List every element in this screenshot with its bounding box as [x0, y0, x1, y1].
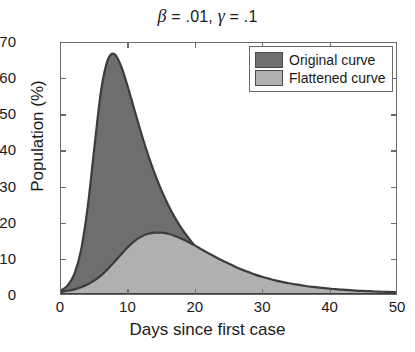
- x-tick-label-30: 30: [237, 298, 287, 315]
- legend-label: Original curve: [289, 52, 375, 68]
- y-tick-mark-40: [391, 150, 397, 151]
- y-tick-mark-40: [60, 150, 66, 151]
- gamma-value: = .1: [230, 8, 258, 25]
- x-tick-label-10: 10: [102, 298, 152, 315]
- y-tick-label-30: 30: [0, 178, 16, 195]
- x-tick-mark-10: [127, 42, 128, 48]
- y-tick-label-10: 10: [0, 250, 16, 267]
- beta-symbol: β: [157, 6, 166, 26]
- figure: β = .01, γ = .1 010203040506070010203040…: [0, 0, 415, 352]
- y-tick-mark-50: [391, 114, 397, 115]
- y-axis-label: Population (%): [28, 21, 48, 251]
- y-tick-mark-30: [60, 187, 66, 188]
- y-tick-label-40: 40: [0, 141, 16, 158]
- legend-item-1[interactable]: Flattened curve: [255, 69, 386, 87]
- y-tick-label-20: 20: [0, 214, 16, 231]
- y-tick-mark-10: [391, 259, 397, 260]
- x-tick-label-50: 50: [372, 298, 415, 315]
- legend-swatch-icon: [255, 52, 283, 68]
- x-tick-label-20: 20: [170, 298, 220, 315]
- legend-item-0[interactable]: Original curve: [255, 51, 386, 69]
- x-tick-label-40: 40: [305, 298, 355, 315]
- y-tick-label-60: 60: [0, 69, 16, 86]
- gamma-symbol: γ: [218, 6, 225, 26]
- y-tick-mark-60: [60, 78, 66, 79]
- beta-value: = .01,: [171, 8, 213, 25]
- y-tick-mark-20: [60, 223, 66, 224]
- y-tick-mark-20: [391, 223, 397, 224]
- x-tick-mark-10: [127, 289, 128, 295]
- y-tick-mark-30: [391, 187, 397, 188]
- chart-title: β = .01, γ = .1: [0, 6, 415, 27]
- x-axis-label: Days since first case: [0, 320, 415, 340]
- x-tick-mark-30: [262, 289, 263, 295]
- legend: Original curveFlattened curve: [249, 46, 393, 92]
- x-tick-mark-40: [330, 289, 331, 295]
- x-tick-mark-20: [195, 289, 196, 295]
- y-tick-label-50: 50: [0, 105, 16, 122]
- y-tick-label-0: 0: [0, 286, 16, 303]
- legend-label: Flattened curve: [289, 70, 386, 86]
- x-tick-mark-20: [195, 42, 196, 48]
- y-tick-label-70: 70: [0, 33, 16, 50]
- y-tick-mark-10: [60, 259, 66, 260]
- legend-swatch-icon: [255, 70, 283, 86]
- x-tick-label-0: 0: [35, 298, 85, 315]
- y-tick-mark-50: [60, 114, 66, 115]
